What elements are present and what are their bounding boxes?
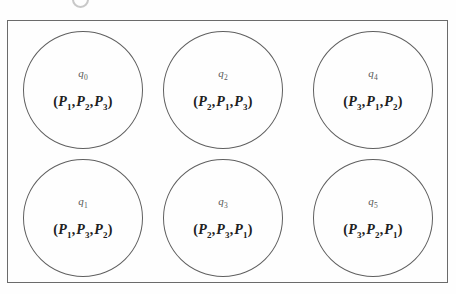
tuple-item-base: P [366,94,375,109]
tuple-item-base: P [366,222,375,237]
state-circle-q3: q3(P2,P3,P1) [163,159,283,277]
tuple-item-base: P [198,222,207,237]
tuple-item-base: P [234,222,243,237]
figure-canvas: q0(P1,P2,P3)q1(P1,P3,P2)q2(P2,P1,P3)q3(P… [0,0,456,294]
state-label-q0: q0 [78,68,87,82]
state-label-subscript: 5 [374,201,378,210]
state-label-subscript: 4 [374,73,378,82]
tuple-item-base: P [216,94,225,109]
tuple-item-base: P [384,94,393,109]
tuple-item-base: P [216,222,225,237]
tuple-item-base: P [198,94,207,109]
state-label-q3: q3 [218,196,227,210]
state-tuple-q1: (P1,P3,P2) [53,223,113,240]
tuple-close-paren: ) [108,94,113,109]
tuple-item-base: P [348,94,357,109]
state-tuple-q5: (P3,P2,P1) [343,223,403,240]
state-circle-grid: q0(P1,P2,P3)q1(P1,P3,P2)q2(P2,P1,P3)q3(P… [8,21,449,284]
tuple-close-paren: ) [398,222,403,237]
state-tuple-q4: (P3,P1,P2) [343,95,403,112]
tuple-item-base: P [58,222,67,237]
state-label-subscript: 2 [224,73,228,82]
state-circle-q0: q0(P1,P2,P3) [23,31,143,149]
tuple-item-base: P [384,222,393,237]
tuple-item-base: P [94,222,103,237]
state-label-subscript: 1 [84,201,88,210]
state-circle-q2: q2(P2,P1,P3) [163,31,283,149]
tuple-close-paren: ) [108,222,113,237]
tuple-close-paren: ) [398,94,403,109]
tuple-item-base: P [58,94,67,109]
state-label-subscript: 3 [224,201,228,210]
state-circle-q4: q4(P3,P1,P2) [313,31,433,149]
tuple-close-paren: ) [248,94,253,109]
state-circle-q1: q1(P1,P3,P2) [23,159,143,277]
state-tuple-q3: (P2,P3,P1) [193,223,253,240]
state-label-q5: q5 [368,196,377,210]
diagram-outer-frame: q0(P1,P2,P3)q1(P1,P3,P2)q2(P2,P1,P3)q3(P… [7,20,448,283]
state-tuple-q2: (P2,P1,P3) [193,95,253,112]
tuple-item-base: P [76,222,85,237]
tuple-item-base: P [348,222,357,237]
state-label-q4: q4 [368,68,377,82]
state-label-q2: q2 [218,68,227,82]
state-label-subscript: 0 [84,73,88,82]
tuple-item-base: P [94,94,103,109]
state-circle-q5: q5(P3,P2,P1) [313,159,433,277]
tuple-item-base: P [76,94,85,109]
state-label-q1: q1 [78,196,87,210]
tuple-item-base: P [234,94,243,109]
state-tuple-q0: (P1,P2,P3) [53,95,113,112]
tuple-close-paren: ) [248,222,253,237]
scan-artifact-glyph [72,0,89,8]
